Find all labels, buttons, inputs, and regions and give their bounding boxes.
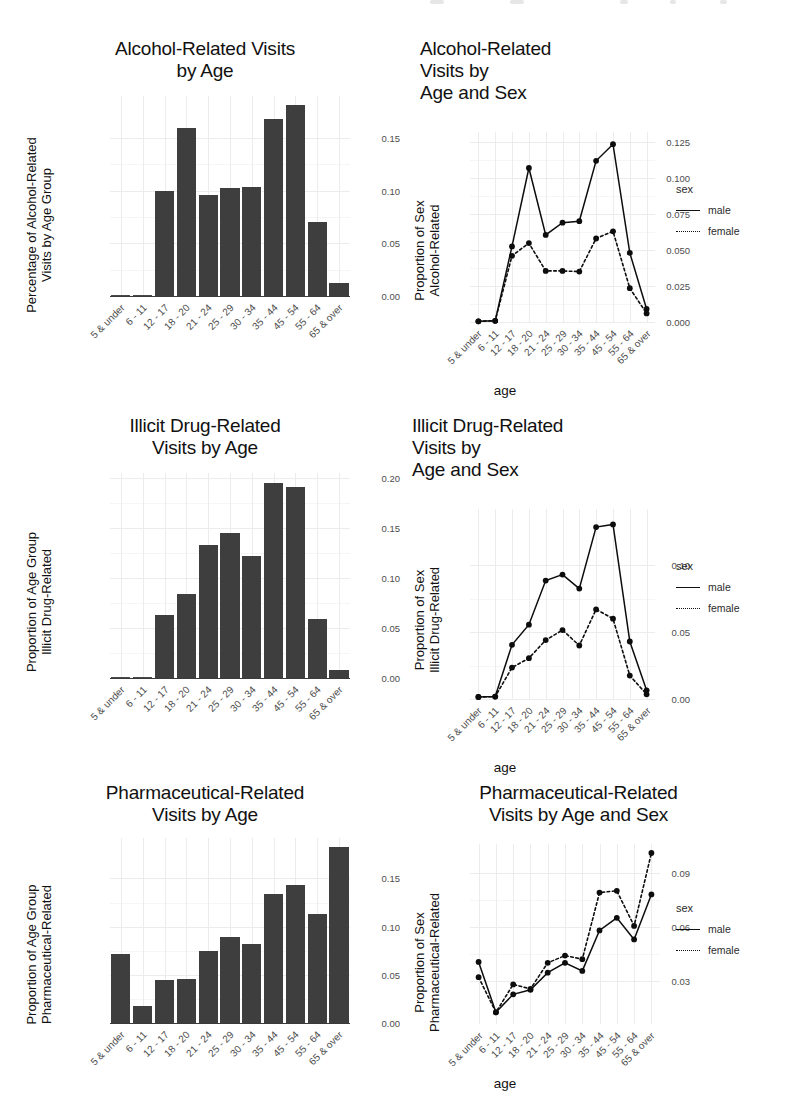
y-axis-tick-label: 0.09 [628,867,690,878]
data-point-female [493,1009,499,1015]
data-point-female [610,228,616,234]
data-point-male [610,522,616,528]
data-point-male [543,578,549,584]
y-axis-tick-label: 0.00 [308,1018,400,1029]
data-point-male [543,232,549,238]
gridline-vertical [143,473,144,678]
legend-title: sex [676,902,740,914]
bar [286,885,305,1023]
legend-item-female[interactable]: female [676,602,740,614]
y-axis-tick-label: 0.125 [628,137,690,148]
data-point-male [649,892,655,898]
data-point-female [545,960,551,966]
chart-title: Pharmaceutical-Related Visits by Age and… [406,782,751,826]
data-point-female [528,986,534,992]
y-axis-tick-label: 0.10 [308,921,400,932]
y-axis-tick-label: 0.15 [308,873,400,884]
chart-title: Alcohol-Related Visits by Age [20,38,390,82]
bar [286,105,305,296]
x-axis-label: age [360,1076,650,1091]
gridline-vertical [121,473,122,678]
legend-key-dotted-line [676,603,700,613]
data-point-male [579,968,585,974]
legend-label: male [708,581,731,593]
data-point-male [509,244,515,250]
legend-key-solid-line [676,924,700,934]
bar [242,556,261,678]
legend-sex: sex male female [676,902,740,965]
legend-label: female [708,602,740,614]
bar [286,487,305,678]
data-point-male [526,165,532,171]
data-point-female [476,694,482,700]
legend-item-male[interactable]: male [676,581,740,593]
y-axis-tick-label: 0.00 [308,673,400,684]
bar [155,980,174,1023]
bar [264,119,283,296]
bar [242,944,261,1023]
data-point-female [492,694,498,700]
line-female [479,853,652,1012]
data-point-female [526,240,532,246]
data-point-female [614,888,620,894]
title-line-2: by Age [20,60,390,82]
data-point-female [597,890,603,896]
data-point-male [509,642,515,648]
plot-area [470,132,655,322]
data-point-female [510,982,516,988]
plot-region: 0.000.050.100.155 & under6 - 1112 - 1718… [10,90,400,380]
data-point-male [576,218,582,224]
legend-sex: sex male female [676,183,740,246]
y-axis-tick-label: 0.10 [308,185,400,196]
data-point-male [560,572,566,578]
legend-item-male[interactable]: male [676,204,740,216]
data-point-male [562,960,568,966]
data-point-female [579,956,585,962]
legend-item-female[interactable]: female [676,944,740,956]
data-point-female [509,253,515,259]
data-point-male [476,959,482,965]
y-axis-tick-label: 0.00 [308,291,400,302]
bar [177,594,196,678]
data-point-male [593,158,599,164]
y-axis-tick-label: 0.10 [308,573,400,584]
bar [199,195,218,296]
legend-sex: sex male female [676,560,740,623]
data-point-male [526,622,532,628]
legend-item-male[interactable]: male [676,923,740,935]
data-point-female [509,665,515,671]
plot-region: 0.000.050.105 & under6 - 1112 - 1718 - 2… [400,503,690,773]
legend-label: female [708,225,740,237]
data-point-female [610,616,616,622]
data-point-female [526,655,532,661]
y-axis-tick-label: 0.05 [628,627,690,638]
data-point-female [576,643,582,649]
data-point-female [593,607,599,613]
y-axis-tick-label: 0.15 [308,523,400,534]
legend-key-solid-line [676,582,700,592]
bar [220,533,239,678]
y-axis-tick-label: 0.20 [308,473,400,484]
data-point-female [492,318,498,324]
panel-illicit-by-age: Illicit Drug-Related Visits by Age Propo… [10,415,400,760]
y-axis-tick-label: 0.00 [628,694,690,705]
data-point-female [593,236,599,242]
data-point-female [649,850,655,856]
panel-pharma-by-age: Pharmaceutical-Related Visits by Age Pro… [10,782,400,1100]
bar [308,222,327,296]
legend-item-female[interactable]: female [676,225,740,237]
bar [242,187,261,296]
bar [220,188,239,296]
data-point-male [560,220,566,226]
legend-key-solid-line [676,205,700,215]
panel-alcohol-by-age: Alcohol-Related Visits by Age Percentage… [10,38,400,383]
bar [133,1006,152,1023]
data-point-male [610,141,616,147]
legend-key-dotted-line [676,226,700,236]
legend-label: female [708,944,740,956]
data-point-male [597,928,603,934]
legend-title: sex [676,560,740,572]
data-point-male [631,937,637,943]
gridline-vertical [143,838,144,1023]
data-point-female [562,953,568,959]
